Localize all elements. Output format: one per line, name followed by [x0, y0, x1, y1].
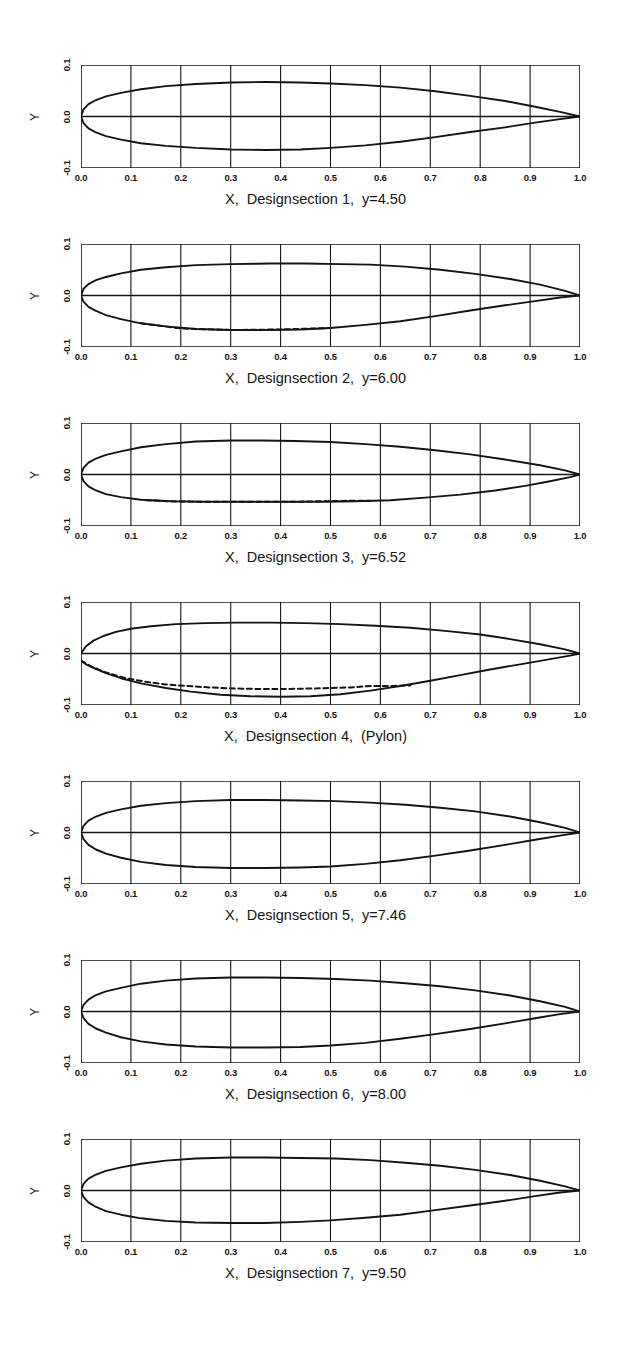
- y-tick-label: 0.0: [60, 639, 74, 669]
- x-tick-label: 0.4: [264, 1246, 298, 1257]
- y-tick-label: 0.0: [60, 102, 74, 132]
- x-tick-label: 0.1: [114, 172, 148, 183]
- x-tick-label: 0.9: [513, 351, 547, 362]
- x-tick-label: 0.7: [413, 530, 447, 541]
- x-tick-label: 1.0: [563, 1246, 597, 1257]
- grid-lines: [81, 423, 580, 526]
- plot-area-5: [81, 781, 580, 884]
- chart-caption-5: X, Designsection 5, y=7.46: [0, 907, 631, 923]
- x-tick-label: 0.3: [214, 351, 248, 362]
- x-tick-label: 0.9: [513, 172, 547, 183]
- grid-lines: [81, 1139, 580, 1242]
- x-tick-label: 0.2: [164, 1246, 198, 1257]
- y-tick-label: 0.1: [60, 587, 74, 617]
- chart-panel-5: 0.10.0-0.1Y0.00.10.20.30.40.50.60.70.80.…: [0, 764, 631, 943]
- x-tick-label: 1.0: [563, 888, 597, 899]
- x-tick-label: 0.2: [164, 172, 198, 183]
- x-tick-label: 0.1: [114, 351, 148, 362]
- curve-lower-surface-alt: [146, 500, 371, 502]
- x-tick-label: 1.0: [563, 1067, 597, 1078]
- x-tick-label: 0.9: [513, 888, 547, 899]
- chart-panel-4: 0.10.0-0.1Y0.00.10.20.30.40.50.60.70.80.…: [0, 585, 631, 764]
- x-tick-label: 1.0: [563, 709, 597, 720]
- x-tick-label: 0.8: [463, 709, 497, 720]
- chart-caption-3: X, Designsection 3, y=6.52: [0, 549, 631, 565]
- x-tick-label: 0.5: [314, 709, 348, 720]
- plot-area-3: [81, 423, 580, 526]
- y-tick-label: 0.1: [60, 1124, 74, 1154]
- plot-area-4: [81, 602, 580, 705]
- x-tick-label: 0.9: [513, 1067, 547, 1078]
- y-tick-label: 0.1: [60, 408, 74, 438]
- plot-area-6: [81, 960, 580, 1063]
- x-tick-label: 0.0: [64, 172, 98, 183]
- chart-panel-1: 0.10.0-0.1Y0.00.10.20.30.40.50.60.70.80.…: [0, 48, 631, 227]
- x-tick-label: 0.1: [114, 888, 148, 899]
- plot-area-2: [81, 244, 580, 347]
- chart-caption-4: X, Designsection 4, (Pylon): [0, 728, 631, 744]
- figure-sheet: 0.10.0-0.1Y0.00.10.20.30.40.50.60.70.80.…: [0, 0, 631, 1360]
- x-tick-label: 0.1: [114, 1246, 148, 1257]
- y-axis-label: Y: [27, 999, 43, 1025]
- x-tick-label: 0.8: [463, 172, 497, 183]
- x-tick-label: 0.8: [463, 888, 497, 899]
- x-tick-label: 0.9: [513, 530, 547, 541]
- x-tick-label: 0.6: [363, 1246, 397, 1257]
- x-tick-label: 0.4: [264, 351, 298, 362]
- x-tick-label: 0.0: [64, 1246, 98, 1257]
- x-tick-label: 0.0: [64, 1067, 98, 1078]
- y-axis-label: Y: [27, 104, 43, 130]
- x-tick-label: 0.0: [64, 888, 98, 899]
- grid-lines: [81, 781, 580, 884]
- x-tick-label: 1.0: [563, 351, 597, 362]
- y-tick-label: 0.0: [60, 1176, 74, 1206]
- x-tick-label: 0.8: [463, 530, 497, 541]
- chart-caption-1: X, Designsection 1, y=4.50: [0, 191, 631, 207]
- x-tick-label: 0.6: [363, 709, 397, 720]
- x-tick-label: 0.3: [214, 709, 248, 720]
- x-tick-label: 0.5: [314, 888, 348, 899]
- x-tick-label: 0.7: [413, 888, 447, 899]
- x-tick-label: 0.4: [264, 1067, 298, 1078]
- x-tick-label: 0.7: [413, 1246, 447, 1257]
- x-tick-label: 0.3: [214, 1246, 248, 1257]
- y-axis-label: Y: [27, 283, 43, 309]
- plot-area-1: [81, 65, 580, 168]
- x-tick-label: 0.5: [314, 172, 348, 183]
- chart-caption-6: X, Designsection 6, y=8.00: [0, 1086, 631, 1102]
- chart-panel-7: 0.10.0-0.1Y0.00.10.20.30.40.50.60.70.80.…: [0, 1122, 631, 1301]
- x-tick-label: 0.3: [214, 888, 248, 899]
- plot-area-7: [81, 1139, 580, 1242]
- y-tick-label: 0.0: [60, 460, 74, 490]
- chart-caption-7: X, Designsection 7, y=9.50: [0, 1265, 631, 1281]
- x-tick-label: 0.6: [363, 172, 397, 183]
- x-tick-label: 0.8: [463, 351, 497, 362]
- x-tick-label: 0.2: [164, 1067, 198, 1078]
- x-tick-label: 0.3: [214, 1067, 248, 1078]
- curve-lower-surface-alt: [141, 323, 331, 330]
- x-tick-label: 0.0: [64, 530, 98, 541]
- y-axis-label: Y: [27, 820, 43, 846]
- x-tick-label: 0.1: [114, 1067, 148, 1078]
- x-tick-label: 0.4: [264, 172, 298, 183]
- x-tick-label: 0.2: [164, 530, 198, 541]
- x-tick-label: 0.5: [314, 1246, 348, 1257]
- x-tick-label: 0.5: [314, 530, 348, 541]
- x-tick-label: 0.6: [363, 351, 397, 362]
- chart-panel-6: 0.10.0-0.1Y0.00.10.20.30.40.50.60.70.80.…: [0, 943, 631, 1122]
- x-tick-label: 0.0: [64, 709, 98, 720]
- x-tick-label: 1.0: [563, 530, 597, 541]
- x-tick-label: 0.8: [463, 1246, 497, 1257]
- grid-lines: [81, 960, 580, 1063]
- x-tick-label: 0.5: [314, 351, 348, 362]
- y-tick-label: 0.0: [60, 818, 74, 848]
- x-tick-label: 0.3: [214, 530, 248, 541]
- x-tick-label: 0.1: [114, 530, 148, 541]
- chart-caption-2: X, Designsection 2, y=6.00: [0, 370, 631, 386]
- y-tick-label: 0.1: [60, 766, 74, 796]
- x-tick-label: 0.9: [513, 1246, 547, 1257]
- x-tick-label: 0.9: [513, 709, 547, 720]
- y-axis-label: Y: [27, 641, 43, 667]
- x-tick-label: 0.7: [413, 709, 447, 720]
- y-tick-label: 0.1: [60, 229, 74, 259]
